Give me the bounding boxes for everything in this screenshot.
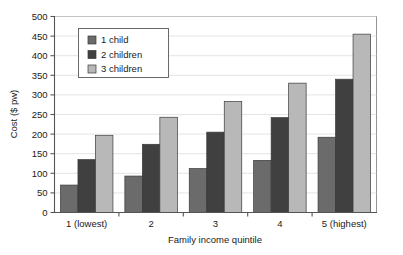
bar	[95, 135, 113, 212]
bar	[142, 144, 160, 212]
chart-canvas: 050100150200250300350400450500 1 (lowest…	[0, 0, 403, 255]
x-axis-tick-labels: 1 (lowest)2345 (highest)	[66, 218, 367, 229]
y-tick-label: 100	[32, 168, 48, 179]
x-tick-label: 3	[213, 218, 218, 229]
bar	[353, 34, 371, 212]
legend-label: 1 child	[101, 34, 128, 45]
legend-label: 2 children	[101, 49, 142, 60]
bar	[60, 185, 77, 212]
legend-label: 3 children	[101, 63, 142, 74]
bar	[289, 83, 307, 212]
bar	[78, 160, 96, 213]
y-axis-title: Cost ($ pw)	[8, 90, 19, 139]
bar	[189, 169, 207, 213]
legend-swatch	[88, 51, 96, 59]
x-tick-label: 5 (highest)	[322, 218, 367, 229]
bar	[336, 79, 354, 212]
x-tick-label: 2	[148, 218, 153, 229]
y-tick-label: 50	[37, 187, 48, 198]
y-tick-label: 300	[32, 89, 48, 100]
y-tick-label: 450	[32, 31, 48, 42]
y-tick-label: 150	[32, 148, 48, 159]
legend-swatch	[88, 65, 96, 73]
x-tick-label: 1 (lowest)	[66, 218, 107, 229]
bar	[271, 118, 289, 213]
x-tick-label: 4	[277, 218, 282, 229]
bar	[254, 160, 272, 212]
y-tick-label: 250	[32, 109, 48, 120]
chart-legend: 1 child2 children3 children	[79, 29, 169, 78]
x-axis-title: Family income quintile	[168, 234, 262, 245]
bar	[207, 132, 225, 212]
bar	[125, 176, 143, 212]
y-tick-label: 400	[32, 50, 48, 61]
y-tick-label: 500	[32, 11, 48, 22]
x-axis-ticks	[119, 213, 312, 217]
legend-swatch	[88, 36, 96, 44]
bar	[224, 102, 242, 213]
y-tick-label: 200	[32, 129, 48, 140]
y-axis-ticks	[51, 17, 55, 213]
y-tick-label: 350	[32, 70, 48, 81]
bar	[318, 137, 336, 212]
y-tick-label: 0	[42, 207, 47, 218]
y-axis-tick-labels: 050100150200250300350400450500	[32, 11, 48, 218]
bar-chart-figure: 050100150200250300350400450500 1 (lowest…	[0, 0, 403, 255]
bar	[160, 117, 178, 212]
